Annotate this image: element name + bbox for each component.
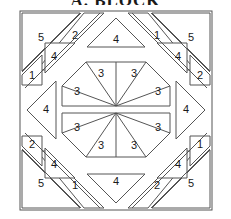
label-tr-5: 5	[188, 31, 194, 43]
label-tl-5: 5	[38, 31, 44, 43]
label-br-1: 1	[197, 138, 203, 150]
label-octagon-3-ne: 3	[131, 67, 137, 79]
label-octagon-3-e-upper: 3	[155, 85, 161, 97]
label-bl-1: 1	[72, 179, 78, 191]
label-edge-bottom: 4	[113, 175, 119, 187]
label-octagon-3-se: 3	[131, 139, 137, 151]
label-tr-1: 1	[154, 29, 160, 41]
label-octagon-3-w-upper: 3	[74, 85, 80, 97]
label-br-4: 4	[175, 158, 181, 170]
label-edge-top: 4	[113, 33, 119, 45]
label-octagon-3-e-lower: 3	[155, 121, 161, 133]
label-tl-1: 1	[29, 69, 35, 81]
label-octagon-3-nw: 3	[98, 67, 104, 79]
block-diagram-svg: 5 2 4 1 5 1 4 2 5 1 4 2 5 2 4	[0, 0, 231, 219]
label-br-5: 5	[188, 177, 194, 189]
label-tr-2: 2	[197, 69, 203, 81]
label-tl-2: 2	[72, 29, 78, 41]
label-edge-left: 4	[43, 103, 49, 115]
quilt-block-figure: A. BLOCK 5 2 4 1 5 1 4 2	[0, 0, 231, 219]
label-octagon-3-sw: 3	[98, 139, 104, 151]
label-br-2: 2	[154, 179, 160, 191]
label-edge-right: 4	[183, 103, 189, 115]
label-bl-5: 5	[38, 177, 44, 189]
label-bl-2: 2	[29, 138, 35, 150]
label-tr-4: 4	[175, 50, 181, 62]
label-bl-4: 4	[51, 158, 57, 170]
label-octagon-3-w-lower: 3	[74, 121, 80, 133]
label-tl-4: 4	[51, 50, 57, 62]
